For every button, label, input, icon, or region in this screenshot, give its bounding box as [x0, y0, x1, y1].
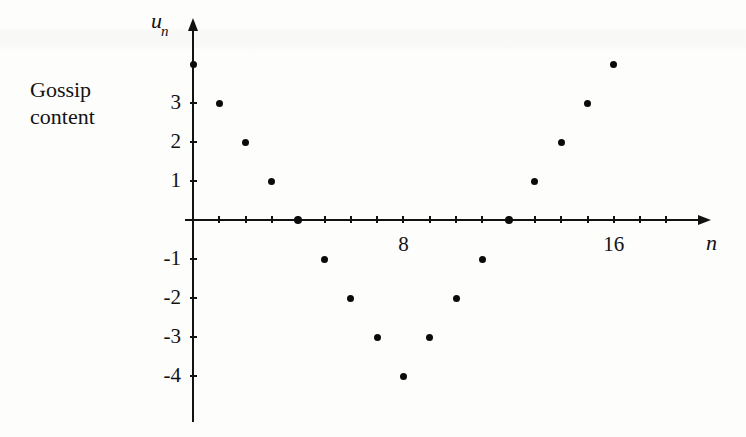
y-axis-arrow-icon: [188, 18, 198, 31]
x-axis-arrow-icon: [698, 215, 711, 225]
y-axis-tick-label: 1: [141, 170, 181, 191]
y-axis-title-subscript: n: [161, 23, 169, 39]
y-axis-tick-label: 3: [141, 92, 181, 113]
data-point: [453, 295, 460, 302]
y-axis-title: un: [151, 8, 170, 37]
x-axis-tick: [271, 216, 273, 223]
data-point: [505, 216, 513, 224]
plot-area: un n 321-1-2-3-4816: [0, 0, 746, 437]
data-point: [426, 334, 433, 341]
x-axis-tick: [455, 216, 457, 223]
data-point: [242, 139, 249, 146]
x-axis-tick: [192, 216, 194, 223]
x-axis-tick: [218, 216, 220, 223]
x-axis-tick: [376, 216, 378, 223]
data-point: [584, 100, 591, 107]
x-axis-tick: [665, 216, 667, 223]
x-axis-tick-label: 16: [594, 234, 634, 255]
x-axis-tick: [245, 216, 247, 223]
y-axis-tick: [190, 375, 197, 377]
data-point: [321, 256, 328, 263]
data-point: [479, 256, 486, 263]
y-axis-tick: [190, 297, 197, 299]
y-axis-tick-label: -3: [141, 326, 181, 347]
y-axis-tick-label: -1: [141, 248, 181, 269]
x-axis-tick: [587, 216, 589, 223]
data-point: [294, 216, 302, 224]
y-axis-line: [192, 30, 194, 422]
data-point: [190, 61, 197, 68]
x-axis-title: n: [706, 230, 717, 256]
x-axis-tick: [560, 216, 562, 223]
y-axis-tick-label: 2: [141, 131, 181, 152]
y-axis-tick: [190, 141, 197, 143]
x-axis-tick: [613, 216, 615, 223]
y-axis-tick: [190, 102, 197, 104]
data-point: [610, 61, 617, 68]
x-axis-tick: [402, 216, 404, 223]
x-axis-tick: [350, 216, 352, 223]
data-point: [347, 295, 354, 302]
data-point: [400, 373, 407, 380]
x-axis-tick-label: 8: [383, 234, 423, 255]
x-axis-tick: [324, 216, 326, 223]
y-axis-tick-label: -4: [141, 365, 181, 386]
x-axis-line: [185, 219, 698, 221]
x-axis-tick: [429, 216, 431, 223]
chart-screenshot: Gossip content un n 321-1-2-3-4816: [0, 0, 746, 437]
x-axis-tick: [481, 216, 483, 223]
data-point: [558, 139, 565, 146]
x-axis-tick: [639, 216, 641, 223]
data-point: [268, 178, 275, 185]
y-axis-tick: [190, 336, 197, 338]
data-point: [374, 334, 381, 341]
y-axis-tick-label: -2: [141, 287, 181, 308]
x-axis-tick: [534, 216, 536, 223]
data-point: [216, 100, 223, 107]
y-axis-tick: [190, 258, 197, 260]
data-point: [531, 178, 538, 185]
y-axis-tick: [190, 180, 197, 182]
